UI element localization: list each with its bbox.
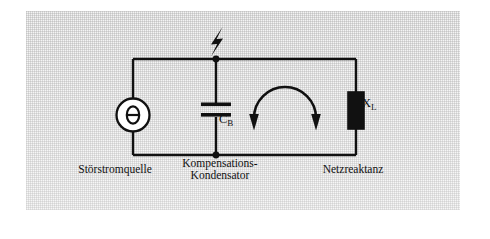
current-source-symbol	[117, 99, 150, 132]
source-caption: Störstromquelle	[57, 163, 173, 175]
junction-dot-top	[213, 56, 220, 63]
capacitor-symbol-subscript: B	[227, 118, 233, 128]
capacitor-caption-line2: Kondensator	[191, 169, 250, 181]
mesh-current-loop-arrow	[249, 87, 321, 131]
capacitor-symbol-label: CB	[219, 113, 233, 128]
loop-arrowhead-left	[249, 114, 259, 131]
loop-arc	[254, 87, 316, 118]
capacitor-caption: Kompensations-Kondensator	[157, 157, 283, 182]
capacitor-plate-top	[201, 103, 231, 107]
circuit-schematic	[0, 0, 490, 239]
capacitor-caption-line1: Kompensations-	[182, 157, 257, 169]
reactance-caption: Netzreaktanz	[298, 163, 408, 175]
reactance-symbol-letter: X	[362, 96, 371, 110]
loop-arrowhead-right	[311, 114, 321, 131]
reactance-symbol-subscript: L	[371, 102, 377, 112]
lightning-bolt-icon	[211, 27, 223, 57]
reactance-symbol-label: XL	[362, 97, 377, 112]
figure-root: CB XL Störstromquelle Kompensations-Kond…	[0, 0, 490, 239]
